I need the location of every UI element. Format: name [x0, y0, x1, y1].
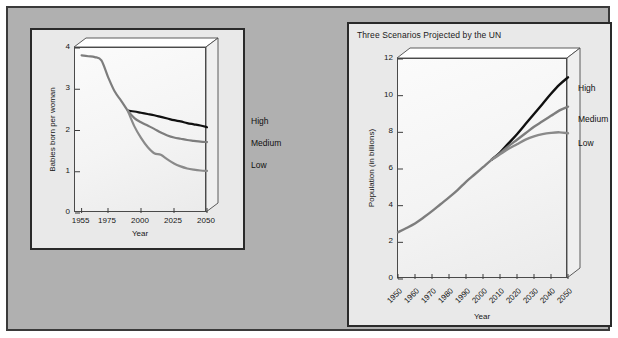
plot-area-3d: [74, 38, 218, 212]
series-line-high: [128, 111, 207, 128]
series-label-low: Low: [578, 138, 594, 148]
series-label-medium: Medium: [251, 138, 281, 148]
series-line-low: [492, 132, 569, 160]
x-tick-label: 2050: [189, 216, 223, 225]
fertility-chart-card: 0123419551975200020252050YearBabies born…: [30, 28, 245, 250]
y-axis-title: Population (in billions): [367, 58, 376, 278]
plot-series-layer: [75, 48, 207, 213]
plot-series-layer: [398, 59, 568, 279]
plot-front-face: [397, 58, 567, 278]
series-line-high: [492, 77, 569, 160]
series-label-medium: Medium: [578, 114, 608, 124]
plot-area-3d: [397, 48, 580, 278]
population-chart-card: Three Scenarios Projected by the UN02468…: [347, 22, 612, 327]
x-axis-title: Year: [74, 229, 206, 238]
series-line-medium: [398, 107, 568, 233]
fertility-chart-inner: 0123419551975200020252050YearBabies born…: [32, 30, 243, 248]
x-tick-label: 2025: [156, 216, 190, 225]
y-axis-title: Babies born per woman: [48, 47, 57, 212]
figure-panel: 0123419551975200020252050YearBabies born…: [6, 6, 610, 331]
population-chart-inner: Three Scenarios Projected by the UN02468…: [349, 24, 610, 325]
series-label-high: High: [251, 116, 268, 126]
x-tick-label: 1975: [90, 216, 124, 225]
x-tick-label: 2000: [123, 216, 157, 225]
series-label-low: Low: [251, 160, 267, 170]
series-label-high: High: [578, 83, 595, 93]
x-axis-title: Year: [397, 312, 567, 321]
chart-title: Three Scenarios Projected by the UN: [357, 30, 501, 40]
figure-root: 0123419551975200020252050YearBabies born…: [0, 0, 618, 338]
plot-front-face: [74, 47, 206, 212]
series-line-medium: [82, 55, 207, 142]
